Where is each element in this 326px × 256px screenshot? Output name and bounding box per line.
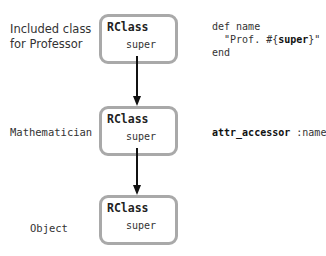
code-line: end: [212, 47, 230, 58]
rclass-box-included: RClass super: [99, 14, 178, 64]
arrow-line: [136, 56, 138, 98]
arrow-line: [136, 148, 138, 188]
super-field: super: [126, 39, 156, 50]
code-line: def name: [212, 21, 260, 32]
rclass-box-mathematician: RClass super: [99, 106, 178, 156]
rclass-box-object: RClass super: [99, 195, 178, 245]
label-line-2: for Professor: [10, 37, 91, 52]
label-included-class: Included class for Professor: [10, 22, 91, 52]
rclass-title: RClass: [107, 201, 149, 215]
code-line: "Prof. #{: [212, 34, 278, 45]
arrowhead-icon: [133, 96, 141, 106]
code-keyword: super: [278, 34, 308, 45]
rclass-title: RClass: [107, 20, 149, 34]
code-line: :name: [290, 127, 326, 138]
label-mathematician: Mathematician: [10, 125, 92, 140]
code-attr-accessor: attr_accessor :name: [212, 126, 326, 139]
super-field: super: [126, 220, 156, 231]
code-line: }": [308, 34, 320, 45]
arrowhead-icon: [133, 185, 141, 195]
code-keyword: attr_accessor: [212, 127, 290, 138]
code-def-name: def name "Prof. #{super}" end: [212, 20, 320, 59]
label-line-1: Included class: [10, 22, 91, 37]
super-field: super: [126, 131, 156, 142]
rclass-title: RClass: [107, 112, 149, 126]
label-object: Object: [30, 221, 68, 236]
